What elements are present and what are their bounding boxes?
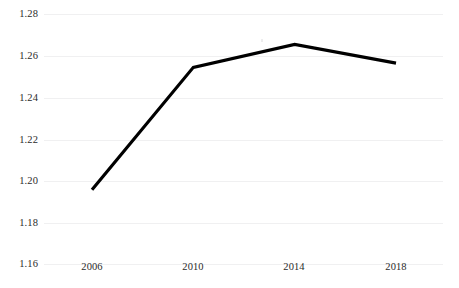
- y-axis-tick-label: 1.18: [0, 218, 38, 229]
- line-chart: 1.28 1.26 1.24 1.22 1.20 1.18 1.16 2006 …: [0, 0, 459, 288]
- x-axis-tick-label: 2006: [62, 262, 122, 273]
- x-axis-tick-label: 2018: [366, 262, 426, 273]
- x-axis-tick-label: 2010: [163, 262, 223, 273]
- series-line: [92, 44, 396, 189]
- x-axis-tick-label: 2014: [264, 262, 324, 273]
- y-axis-tick-label: 1.16: [0, 259, 38, 270]
- y-axis-tick-label: 1.22: [0, 135, 38, 146]
- y-axis-tick-label: 1.26: [0, 51, 38, 62]
- y-axis-tick-label: 1.20: [0, 176, 38, 187]
- y-axis-tick-label: 1.28: [0, 9, 38, 20]
- series-line-group: [44, 14, 443, 265]
- y-axis-tick-label: 1.24: [0, 93, 38, 104]
- plot-area: [44, 14, 443, 265]
- stray-mark: [261, 39, 263, 42]
